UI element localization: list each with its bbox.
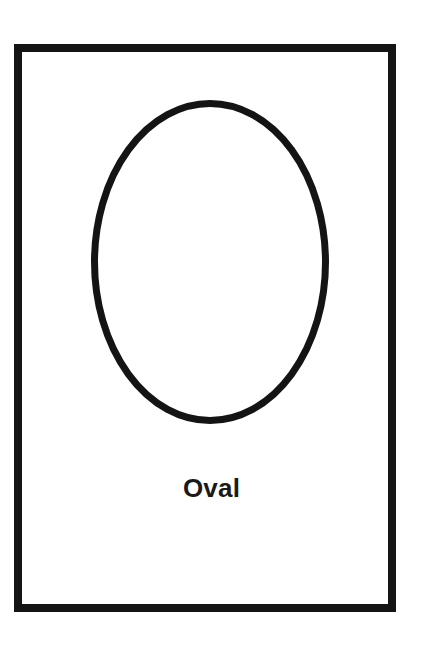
shape-flashcard: Oval [0,0,423,646]
card-frame-border [14,44,396,612]
shape-label: Oval [0,473,423,503]
card-inner-page [22,52,388,604]
